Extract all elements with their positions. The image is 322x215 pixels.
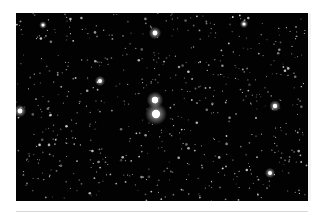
bright-stars: [16, 20, 281, 178]
separator-line: [16, 211, 308, 212]
star-field-image: [16, 13, 308, 201]
star-field-canvas: [16, 13, 308, 201]
image-edge: [308, 13, 311, 201]
